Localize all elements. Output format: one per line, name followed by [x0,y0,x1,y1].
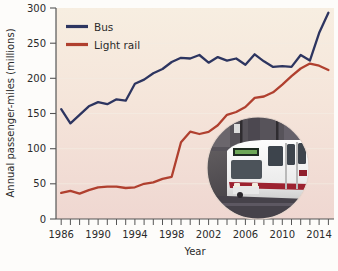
y-tick-label: 300 [27,3,46,14]
chart-figure: 0 50 100 150 200 250 300 [0,0,338,271]
legend-label-bus: Bus [94,21,113,33]
light-rail-train-photo [207,117,309,219]
x-tick-label: 1998 [159,229,184,240]
y-tick-label: 150 [27,108,46,119]
x-axis-minor-ticks [61,219,328,225]
x-axis-tick-labels: 1986 1990 1994 1998 2002 2006 2010 2014 [48,229,331,240]
x-tick-label: 2010 [270,229,295,240]
y-axis-title: Annual passenger-miles (millions) [5,28,16,197]
x-tick-label: 1986 [48,229,73,240]
y-tick-label: 100 [27,143,46,154]
x-tick-label: 2006 [233,229,258,240]
y-tick-label: 250 [27,38,46,49]
x-axis-title: Year [183,246,206,257]
y-axis-ticks [50,8,56,219]
y-tick-label: 200 [27,73,46,84]
y-tick-label: 50 [33,178,46,189]
legend-label-light-rail: Light rail [94,39,140,51]
x-tick-label: 1990 [85,229,110,240]
x-tick-label: 2014 [306,229,331,240]
y-axis-tick-labels: 0 50 100 150 200 250 300 [27,3,46,225]
x-tick-label: 1994 [122,229,147,240]
x-tick-label: 2002 [196,229,221,240]
y-tick-label: 0 [40,214,46,225]
line-chart: 0 50 100 150 200 250 300 [0,0,338,271]
